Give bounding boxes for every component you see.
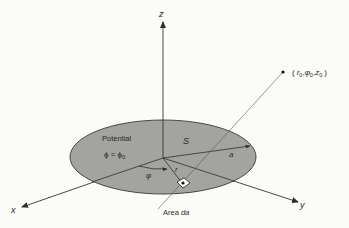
z-axis-label: z	[158, 9, 164, 19]
field-point-dot	[281, 70, 284, 73]
field-point-label: (r0,φ0,z0)	[292, 68, 327, 78]
phi-angle-label: φ	[146, 171, 151, 180]
x-axis-label: x	[10, 205, 16, 215]
area-da-label: Area da	[163, 208, 189, 217]
potential-title: Potential	[102, 134, 132, 143]
y-axis-label: y	[299, 200, 305, 210]
disk-s-label: S	[183, 136, 189, 146]
radius-a-label: a	[229, 150, 234, 159]
disk-potential-diagram: z x y S Potential ϕ = ϕ0 a φ r Area da (…	[0, 0, 349, 228]
